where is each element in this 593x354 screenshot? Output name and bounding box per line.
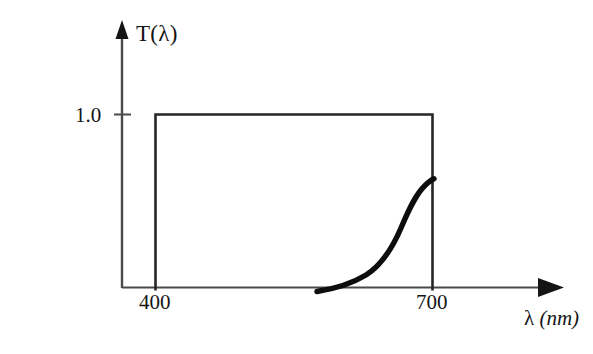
- x-tick-label-700: 700: [416, 290, 448, 315]
- ideal-passband-rectangle: [156, 115, 433, 291]
- x-axis-arrowhead: [538, 278, 564, 297]
- x-axis-symbol: λ: [524, 306, 534, 330]
- actual-response-curve: [317, 179, 434, 292]
- y-tick-label-1.0: 1.0: [75, 103, 101, 128]
- x-axis-title: λ (nm): [524, 306, 579, 331]
- x-axis-unit: (nm): [539, 306, 579, 330]
- y-axis-title: T(λ): [136, 21, 178, 47]
- transmittance-figure: T(λ) 1.0 400 700 λ (nm): [0, 0, 593, 354]
- plot-canvas: [0, 0, 593, 354]
- x-tick-label-400: 400: [139, 290, 171, 315]
- y-axis-arrowhead: [116, 20, 129, 39]
